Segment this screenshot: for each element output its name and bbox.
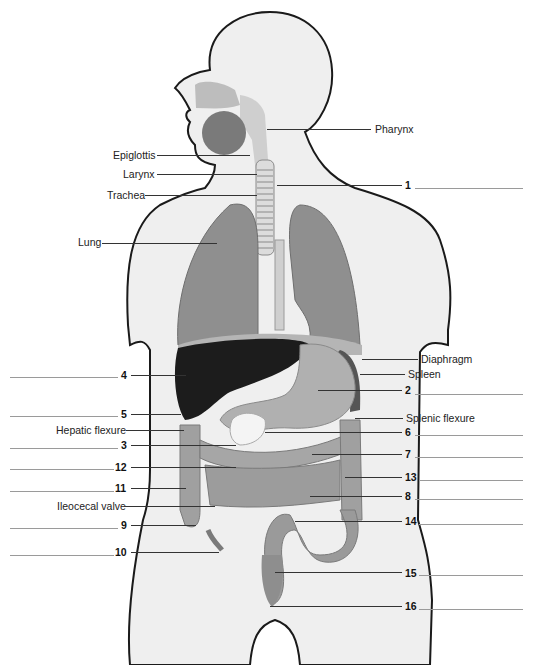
leader-8 — [310, 496, 402, 497]
leader-2 — [318, 390, 402, 391]
answer-blank-4[interactable] — [10, 377, 118, 378]
answer-blank-6[interactable] — [415, 435, 523, 436]
answer-blank-14[interactable] — [419, 524, 523, 525]
answer-blank-3[interactable] — [10, 448, 118, 449]
leader-diaphragm — [362, 359, 418, 360]
label-epiglottis: Epiglottis — [113, 149, 156, 161]
leader-10 — [131, 552, 219, 553]
label-lung: Lung — [78, 236, 101, 248]
answer-blank-15[interactable] — [419, 575, 523, 576]
label-splenic-flexure: Splenic flexure — [406, 412, 475, 424]
number-10: 10 — [115, 546, 127, 558]
leader-hepatic-flexure — [126, 430, 184, 431]
large-intestine — [180, 425, 200, 527]
answer-blank-10[interactable] — [10, 555, 114, 556]
number-5: 5 — [121, 408, 127, 420]
number-7: 7 — [405, 448, 411, 460]
leader-1 — [277, 185, 402, 186]
answer-blank-7[interactable] — [415, 457, 523, 458]
answer-blank-5[interactable] — [10, 416, 118, 417]
leader-trachea — [145, 195, 257, 196]
label-larynx: Larynx — [123, 168, 155, 180]
label-hepatic-flexure: Hepatic flexure — [56, 424, 126, 436]
number-1: 1 — [405, 179, 411, 191]
answer-blank-13[interactable] — [419, 480, 523, 481]
answer-blank-8[interactable] — [415, 499, 523, 500]
leader-larynx — [157, 174, 257, 175]
label-pharynx: Pharynx — [375, 123, 414, 135]
trachea-shape — [256, 160, 274, 255]
number-3: 3 — [121, 439, 127, 451]
number-4: 4 — [121, 369, 127, 381]
descending-colon — [340, 420, 362, 520]
leader-7 — [312, 454, 402, 455]
answer-blank-16[interactable] — [419, 609, 523, 610]
answer-blank-12[interactable] — [10, 469, 114, 470]
label-ileocecal-valve: Ileocecal valve — [57, 500, 126, 512]
answer-blank-9[interactable] — [10, 528, 118, 529]
leader-15 — [275, 572, 402, 573]
answer-blank-1[interactable] — [415, 188, 523, 189]
label-spleen: Spleen — [408, 368, 441, 380]
leader-epiglottis — [157, 155, 250, 156]
leader-ileocecal-valve — [125, 506, 215, 507]
anatomy-illustration — [0, 0, 533, 665]
leader-splenic-flexure — [355, 418, 403, 419]
number-13: 13 — [405, 471, 417, 483]
label-diaphragm: Diaphragm — [421, 353, 472, 365]
esophagus — [275, 240, 284, 330]
leader-14 — [295, 521, 402, 522]
number-8: 8 — [405, 490, 411, 502]
leader-16 — [270, 606, 402, 607]
leader-3 — [131, 445, 236, 446]
number-2: 2 — [405, 384, 411, 396]
answer-blank-2[interactable] — [415, 394, 523, 395]
leader-spleen — [360, 374, 405, 375]
leader-4 — [131, 375, 186, 376]
number-9: 9 — [121, 519, 127, 531]
label-trachea: Trachea — [107, 189, 145, 201]
leader-pharynx — [267, 129, 371, 130]
leader-5 — [131, 414, 181, 415]
number-12: 12 — [115, 461, 127, 473]
leader-13 — [345, 477, 402, 478]
leader-12 — [131, 467, 236, 468]
number-14: 14 — [405, 515, 417, 527]
number-11: 11 — [115, 482, 126, 494]
tongue — [202, 111, 246, 155]
leader-6 — [265, 432, 402, 433]
leader-9 — [131, 525, 196, 526]
number-6: 6 — [405, 426, 411, 438]
number-15: 15 — [405, 567, 417, 579]
number-16: 16 — [405, 600, 417, 612]
leader-lung — [102, 243, 217, 244]
leader-11 — [131, 488, 186, 489]
answer-blank-11[interactable] — [10, 491, 114, 492]
